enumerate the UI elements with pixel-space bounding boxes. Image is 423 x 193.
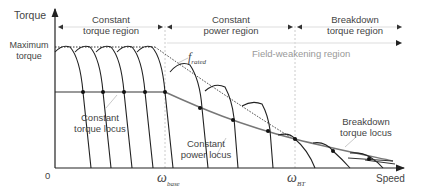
omega-bt-label: ωBT — [287, 172, 305, 190]
constant-power-locus-label: Constant power locus — [178, 138, 234, 160]
breakdown-torque-region-label: Breakdown torque region — [320, 14, 390, 36]
field-weakening-region-label: Field-weakening region — [252, 48, 350, 59]
breakdown-torque-locus-label: Breakdown torque locus — [336, 116, 396, 138]
y-axis-label: Torque — [14, 10, 46, 21]
origin-label: 0 — [45, 170, 50, 181]
f-rated-label: frated — [188, 52, 206, 68]
omega-base-label: ωbase — [157, 172, 180, 190]
constant-torque-locus-label: Constant torque locus — [70, 112, 130, 134]
constant-power-region-label: Constant power region — [200, 14, 262, 36]
max-torque-label: Maximum torque — [6, 40, 52, 62]
x-axis-label: Speed — [376, 173, 405, 184]
constant-torque-region-label: Constant torque region — [80, 14, 142, 36]
